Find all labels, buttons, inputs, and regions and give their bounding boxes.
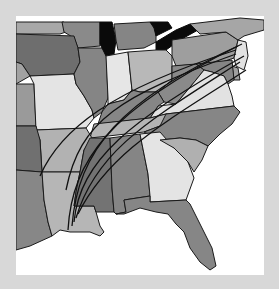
state-michigan[interactable] bbox=[114, 22, 156, 50]
state-florida[interactable] bbox=[116, 196, 216, 270]
state-oklahoma[interactable] bbox=[16, 126, 42, 172]
map-panel bbox=[16, 16, 264, 275]
eastern-us-map bbox=[16, 16, 264, 275]
map-frame bbox=[0, 0, 279, 289]
state-kansas[interactable] bbox=[16, 84, 36, 126]
